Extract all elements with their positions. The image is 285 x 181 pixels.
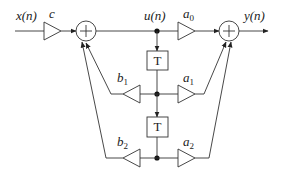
right-adder <box>219 21 239 41</box>
gain-a0-label: a0 <box>183 6 195 23</box>
gain-triangle-icon <box>178 149 195 167</box>
gain-b1: b1 <box>86 43 157 103</box>
gain-a2-label: a2 <box>183 134 194 151</box>
gain-triangle-icon <box>178 85 195 103</box>
input-signal: x(n) <box>15 8 44 31</box>
output-signal: y(n) <box>239 8 268 31</box>
delay-1: T <box>147 51 168 70</box>
gain-triangle-icon <box>178 22 195 40</box>
gain-b2: b2 <box>82 42 157 167</box>
input-gain-c: c <box>44 6 76 40</box>
delay-1-label: T <box>154 53 162 68</box>
signal-flow-diagram: x(n) c u(n) a0 y(n) T <box>0 0 285 181</box>
delay-2-label: T <box>154 119 162 134</box>
left-adder <box>76 21 96 41</box>
gain-b1-label: b1 <box>117 70 128 87</box>
gain-a0: a0 <box>178 6 219 40</box>
input-gain-label: c <box>49 6 55 21</box>
delay-2: T <box>147 117 168 137</box>
gain-a1-label: a1 <box>183 70 194 87</box>
gain-b2-label: b2 <box>117 134 128 151</box>
gain-triangle-icon <box>123 85 140 103</box>
intermediate-label: u(n) <box>144 8 166 23</box>
gain-triangle-icon <box>44 22 61 40</box>
gain-triangle-icon <box>123 149 140 167</box>
output-label: y(n) <box>242 8 265 23</box>
input-label: x(n) <box>15 8 37 23</box>
